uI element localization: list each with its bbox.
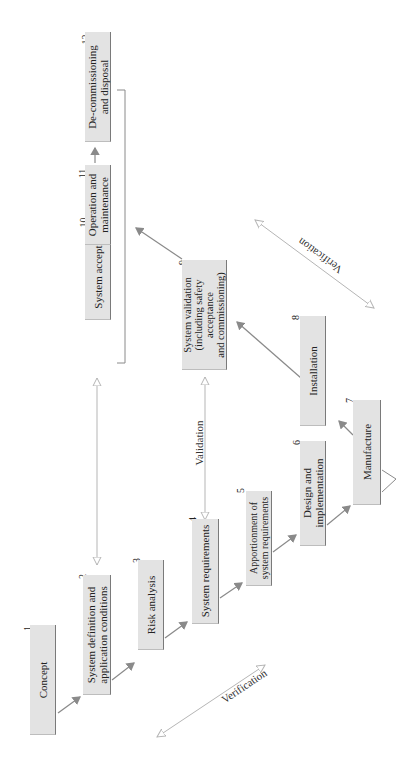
arrow-6-to-7 — [327, 506, 350, 525]
phase-box-installation: Installation — [300, 316, 326, 426]
phase-box-decommissioning: De-commissioningand disposal — [85, 32, 111, 142]
phase-box-apportionment: Apportionment ofsystem requirements — [246, 491, 272, 586]
arrow-1-to-2 — [58, 697, 80, 713]
phase-label-system-requirements: System requirements — [199, 525, 211, 618]
connectors-layer — [0, 0, 409, 767]
phase-label-installation: Installation — [307, 346, 319, 396]
phase-box-system-validation: System validation(including safetyaccept… — [182, 260, 227, 370]
phase-label-system-definition: System definition andapplication conditi… — [85, 586, 109, 683]
phase-label-concept: Concept — [37, 661, 49, 698]
phase-label-decommissioning: De-commissioningand disposal — [86, 45, 110, 129]
arrow-9-to-11 — [136, 228, 182, 259]
arrow-8-to-9 — [237, 322, 301, 378]
phase-label-apportionment: Apportionment ofsystem requirements — [248, 497, 270, 579]
phase-box-risk-analysis: Risk analysis — [138, 560, 164, 650]
phase-label-design: Design andimplementation — [301, 458, 325, 527]
arrow-7-to-8 — [339, 421, 353, 435]
phase-box-operation-maintenance: Operation andmaintenance — [85, 165, 111, 245]
verification-arrow-right — [255, 220, 374, 308]
phase-box-manufacture: Manufacture — [353, 400, 381, 505]
bracket-operation — [117, 90, 125, 363]
phase-label-manufacture: Manufacture — [361, 424, 373, 480]
validation-label: Validation — [193, 420, 205, 465]
arrow-4-to-5 — [220, 583, 242, 598]
arrow-3-to-4 — [165, 622, 187, 638]
phase-box-design: Design andimplementation — [300, 441, 326, 546]
phase-number-5: 5 — [235, 488, 246, 493]
phase-box-system-requirements: System requirements — [192, 519, 219, 624]
bracket-manufacture — [382, 470, 396, 492]
arrow-5-to-6 — [273, 535, 296, 552]
phase-box-concept: Concept — [30, 625, 56, 735]
arrow-2-to-3 — [112, 663, 134, 680]
phase-label-operation-maintenance: Operation andmaintenance — [86, 173, 110, 236]
phase-label-system-validation: System validation(including safetyaccept… — [182, 272, 226, 357]
phase-label-risk-analysis: Risk analysis — [145, 575, 157, 633]
v-model-diagram: 1 Concept 2 System definition andapplica… — [0, 0, 409, 767]
phase-box-system-definition: System definition andapplication conditi… — [83, 575, 111, 695]
